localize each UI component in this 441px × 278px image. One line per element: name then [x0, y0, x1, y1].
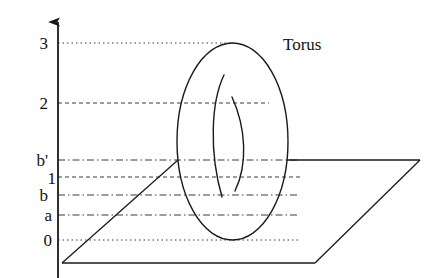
torus-plane-figure: 3 2 b' 1 b a 0 Torus [0, 0, 441, 278]
tick-label-1: 1 [16, 170, 56, 187]
figure-canvas [0, 0, 441, 278]
figure-caption-torus: Torus [283, 36, 321, 53]
torus-inner-left-curve [213, 75, 224, 197]
tick-label-2: 2 [10, 95, 48, 112]
tick-label-0: 0 [12, 232, 52, 249]
plane-left-edge [62, 160, 178, 263]
plane-right-edge [315, 160, 420, 263]
tick-label-b: b [8, 187, 48, 204]
tick-label-b-prime: b' [8, 152, 48, 169]
level-lines [58, 43, 300, 240]
torus-outer-ellipse [177, 43, 288, 240]
tick-label-3: 3 [10, 35, 48, 52]
tick-label-a: a [12, 207, 52, 224]
